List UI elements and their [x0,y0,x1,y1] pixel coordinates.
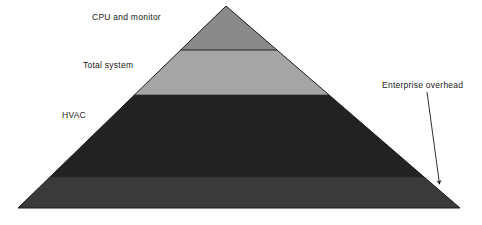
callout-label-enterprise-overhead: Enterprise overhead [382,81,463,90]
band-cpu-and-monitor [0,4,482,51]
tier-label-total-system: Total system [83,61,133,70]
tier-label-cpu-and-monitor: CPU and monitor [92,13,161,22]
band-enterprise-overhead [0,177,482,210]
band-hvac [0,95,482,178]
pyramid-bands-group [0,4,482,210]
tier-label-hvac: HVAC [62,111,86,120]
pyramid-diagram-figure: CPU and monitor Total system HVAC Enterp… [0,0,482,225]
enterprise-overhead-arrow [427,92,440,184]
